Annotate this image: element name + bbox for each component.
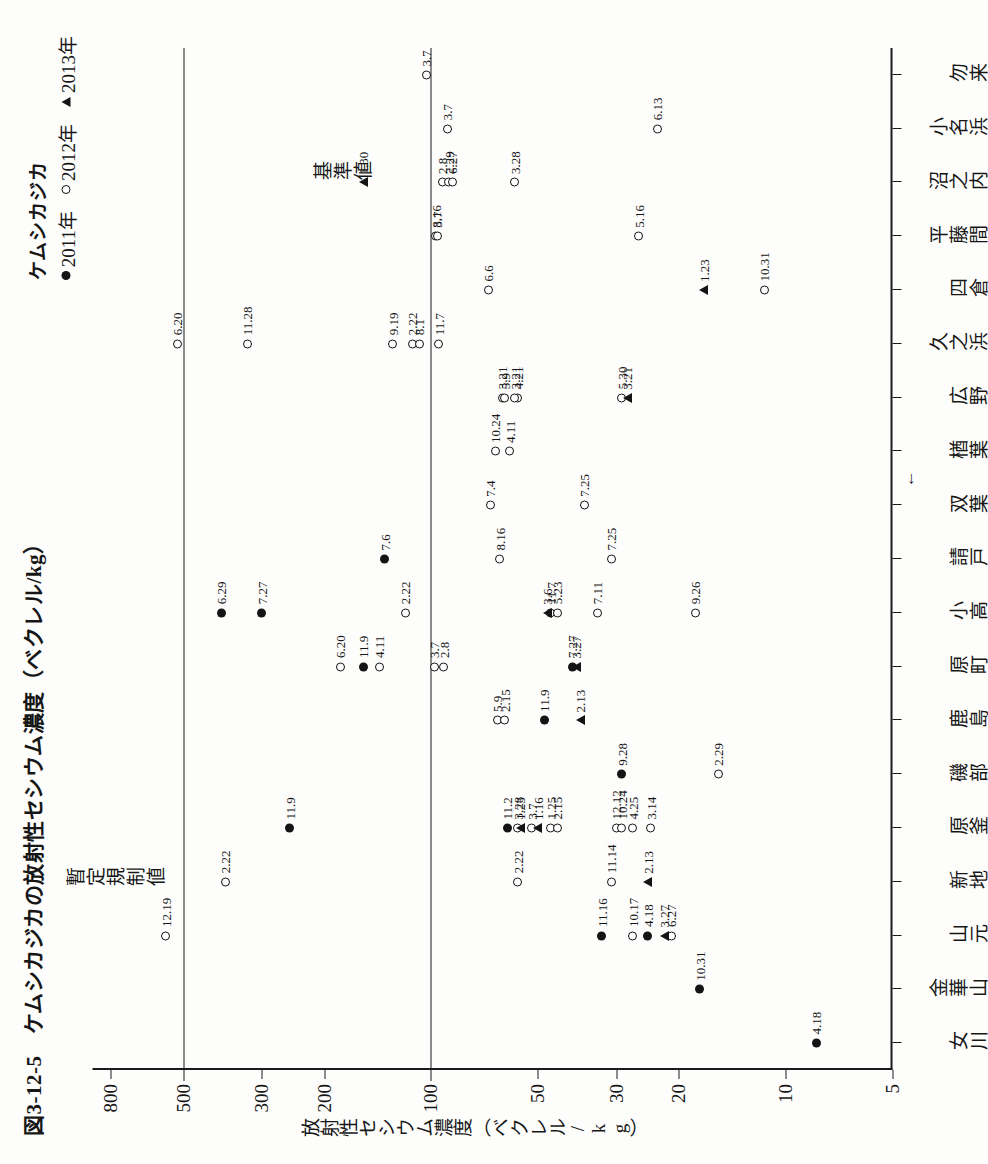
data-point-date-label: 1.23 <box>697 259 710 282</box>
data-point-date-label: 11.28 <box>240 307 253 336</box>
category-label: 四倉 <box>948 281 988 299</box>
data-point-date-label: 11.9 <box>283 797 296 819</box>
data-point-date-label: 3.6 <box>540 589 553 605</box>
open-circle-icon <box>606 555 615 564</box>
value-tick <box>616 1070 617 1079</box>
data-point: 3.27 <box>571 662 580 672</box>
data-point-date-label: 9.28 <box>615 743 628 766</box>
data-point: 3.7 <box>442 124 451 133</box>
data-point: 8.16 <box>495 555 504 564</box>
reference-line-label: 暫定規制値 <box>65 864 165 891</box>
value-tick-label: 10 <box>776 1084 795 1130</box>
filled-circle-icon <box>358 662 367 671</box>
open-circle-icon <box>490 447 499 456</box>
open-circle-icon <box>439 662 448 671</box>
data-point-date-label: 2.22 <box>218 851 231 874</box>
category-tick <box>892 935 901 936</box>
open-circle-icon <box>335 662 344 671</box>
open-circle-icon <box>388 339 397 348</box>
data-point-date-label: 10.31 <box>757 252 770 281</box>
data-point: 11.16 <box>597 931 606 940</box>
data-point-date-label: 4.11 <box>372 636 385 658</box>
data-point: 11.9 <box>539 716 548 725</box>
data-point: 7.27 <box>257 608 266 617</box>
data-point: 11.28 <box>242 339 251 348</box>
data-point: 2.22 <box>513 877 522 886</box>
open-circle-icon <box>759 286 768 295</box>
data-point-date-label: 6.29 <box>214 582 227 605</box>
data-point-date-label: 4.11 <box>503 421 516 443</box>
value-tick-label: 500 <box>173 1084 192 1130</box>
data-point-date-label: 2.13 <box>641 851 654 874</box>
data-point: 3.28 <box>510 178 519 187</box>
category-tick <box>892 289 901 290</box>
open-circle-icon <box>400 608 409 617</box>
open-circle-icon <box>606 877 615 886</box>
value-tick <box>261 1070 262 1079</box>
data-point-date-label: 10.31 <box>693 952 706 981</box>
filled-triangle-icon <box>699 285 708 295</box>
data-point-date-label: 11.16 <box>595 898 608 927</box>
open-circle-icon <box>634 232 643 241</box>
data-point-date-label: 7.11 <box>590 582 603 604</box>
data-point: 2.15 <box>500 716 509 725</box>
data-point-date-label: 10.17 <box>626 898 639 927</box>
open-circle-icon <box>617 823 626 832</box>
data-point-date-label: 2.15 <box>550 797 563 820</box>
data-point-date-label: 11.9 <box>356 636 369 658</box>
open-circle-icon <box>646 823 655 832</box>
open-circle-icon <box>447 178 456 187</box>
figure-title: 図3-12-5 ケムシカジカの放射性セシウム濃度（ベクレル/kg） <box>16 533 46 1137</box>
open-circle-icon <box>485 501 494 510</box>
open-circle-icon <box>432 232 441 241</box>
open-circle-icon <box>483 286 492 295</box>
data-point-date-label: 7.27 <box>255 582 268 605</box>
open-circle-icon <box>652 124 661 133</box>
open-circle-icon <box>579 501 588 510</box>
data-point-date-label: 2.29 <box>711 743 724 766</box>
plot-area: 800500300200100503020105 女川金華山山元新地原釜磯部鹿島… <box>92 48 892 1070</box>
data-point: 10.31 <box>695 985 704 994</box>
data-point-date-label: 7.25 <box>604 528 617 551</box>
data-point-date-label: 3.21 <box>508 366 521 389</box>
data-point: 7.4 <box>485 501 494 510</box>
category-label: 小名浜 <box>928 120 988 138</box>
data-point: 2.13 <box>575 715 584 725</box>
data-point-date-label: 3.7 <box>430 212 443 228</box>
legend-title: ケムシカジカ <box>22 36 49 280</box>
data-point-date-label: 6.6 <box>481 265 494 281</box>
category-tick <box>892 128 901 129</box>
open-circle-icon <box>374 662 383 671</box>
data-point-date-label: 3.7 <box>440 104 453 120</box>
data-point-date-label: 2.22 <box>511 851 524 874</box>
open-circle-icon <box>513 877 522 886</box>
value-tick <box>324 1070 325 1079</box>
data-point: 11.7 <box>434 339 443 348</box>
data-point: 9.28 <box>617 770 626 779</box>
data-point-date-label: 6.13 <box>650 97 663 120</box>
left-arrow-icon: ← <box>898 470 918 487</box>
category-axis-line <box>890 48 892 1070</box>
data-point: 3.21 <box>622 393 631 403</box>
data-point-date-label: 8.16 <box>493 528 506 551</box>
data-point-date-label: 7.4 <box>483 480 496 496</box>
category-label: 請戸 <box>948 550 988 568</box>
legend-item-2012: 2012年 <box>52 124 79 194</box>
value-tick-label: 50 <box>528 1084 547 1130</box>
data-point: 3.7 <box>432 232 441 241</box>
value-tick <box>537 1070 538 1079</box>
data-point: 6.6 <box>483 286 492 295</box>
open-circle-icon <box>61 185 70 194</box>
filled-circle-icon <box>61 271 70 280</box>
filled-triangle-icon <box>571 662 580 672</box>
legend-label-2011: 2011年 <box>52 211 79 267</box>
data-point: 12.19 <box>161 931 170 940</box>
data-point-date-label: 3.27 <box>657 905 670 928</box>
data-point-date-label: 2.8 <box>437 642 450 658</box>
data-point: 10.31 <box>759 286 768 295</box>
data-point-date-label: 11.9 <box>537 690 550 712</box>
legend-label-2013: 2013年 <box>52 36 79 93</box>
open-circle-icon <box>628 823 637 832</box>
data-point: 2.13 <box>643 877 652 887</box>
